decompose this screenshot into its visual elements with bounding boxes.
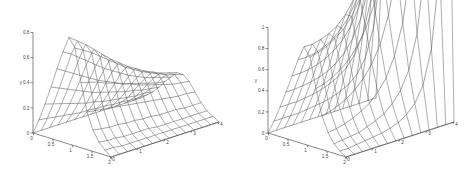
mesh-line-constant-x (304, 0, 412, 47)
z-tick-label: 0 (347, 157, 350, 162)
x-tick-label: 0.5 (283, 142, 290, 147)
z-tick-label: 2 (166, 140, 169, 145)
x-tick-label: 2 (108, 160, 111, 165)
right-plot-canvas: 00.20.40.60.81y00.511.5201234 (238, 0, 476, 176)
y-tick-label: 0.8 (23, 30, 30, 35)
axes-group (31, 33, 219, 160)
mesh-line-constant-t (293, 34, 371, 149)
z-tick-label: 3 (428, 131, 431, 136)
mesh-line-constant-t (91, 66, 169, 138)
x-tick-label: 0 (30, 136, 33, 141)
y-tick-label: 1 (262, 25, 265, 30)
y-axis-label: y (255, 78, 258, 83)
mesh-line-constant-x (286, 0, 394, 92)
z-tick-label: 2 (401, 140, 404, 145)
y-tick-label: 0.4 (23, 80, 30, 85)
x-tick-label: 1.5 (322, 154, 329, 159)
mesh-line-constant-t (141, 73, 219, 122)
mesh-line-constant-t (343, 0, 421, 133)
mesh-line-constant-x (274, 0, 382, 121)
x-tick-label: 1 (69, 148, 72, 153)
y-tick-label: 0 (262, 131, 265, 136)
y-tick-label: 0.6 (23, 55, 30, 60)
y-tick-label: 0.8 (258, 46, 265, 51)
x-tick-label: 0 (265, 136, 268, 141)
y-tick-label: 0 (27, 131, 30, 136)
mesh-line-constant-t (268, 47, 346, 157)
tick-label-group: 00.20.40.60.8y00.511.5201234 (20, 30, 223, 165)
z-tick-label: 1 (139, 149, 142, 154)
x-tick-label: 0.5 (48, 142, 55, 147)
axes-group (266, 27, 454, 159)
mesh-line-constant-t (318, 0, 396, 141)
mesh-line-constant-x (328, 0, 436, 132)
z-tick-label: 4 (455, 122, 458, 127)
mesh-line-constant-t (326, 0, 404, 138)
x-tick-label: 1.5 (87, 154, 94, 159)
figure-root: 00.20.40.60.8y00.511.5201234 00.20.40.60… (0, 0, 476, 176)
left-surface-plot: 00.20.40.60.8y00.511.5201234 (0, 0, 238, 176)
right-surface-plot: 00.20.40.60.81y00.511.5201234 (238, 0, 476, 176)
z-tick (345, 157, 346, 159)
z-tick-label: 1 (374, 149, 377, 154)
z-tick (110, 157, 111, 159)
mesh-line-constant-t (99, 69, 177, 136)
mesh-line-constant-t (351, 0, 429, 130)
mesh-line-constant-t (276, 44, 354, 154)
y-tick-label: 0.6 (258, 67, 265, 72)
y-tick-label: 0.2 (23, 106, 30, 111)
mesh-line-constant-t (58, 49, 136, 149)
mesh-group (33, 37, 219, 157)
x-tick-label: 1 (304, 148, 307, 153)
z-tick-label: 4 (220, 122, 223, 127)
mesh-line-constant-x (268, 98, 376, 133)
y-tick-label: 0.2 (258, 110, 265, 115)
mesh-group (268, 0, 454, 157)
z-tick-label: 3 (193, 131, 196, 136)
mesh-line-constant-t (50, 45, 128, 152)
x-tick-label: 2 (343, 160, 346, 165)
y-tick-label: 0.4 (258, 88, 265, 93)
mesh-line-constant-t (116, 72, 194, 130)
z-tick-label: 0 (112, 157, 115, 162)
left-plot-canvas: 00.20.40.60.8y00.511.5201234 (0, 0, 238, 176)
